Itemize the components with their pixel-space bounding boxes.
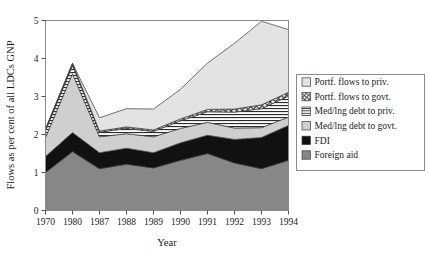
- y-tick-label: 0: [34, 206, 39, 216]
- legend-swatch: [302, 107, 310, 115]
- legend-label: Med/lng debt to govt.: [315, 121, 397, 131]
- legend-label: FDI: [315, 136, 330, 146]
- x-tick-label: 1988: [117, 217, 136, 227]
- legend-label: Portf. flows to govt.: [315, 92, 391, 102]
- x-tick-label: 1980: [63, 217, 82, 227]
- y-tick-label: 4: [34, 54, 39, 64]
- legend-swatch: [302, 151, 310, 159]
- legend-label: Med/lng debt to priv.: [315, 106, 395, 116]
- y-tick-label: 2: [34, 130, 39, 140]
- legend-swatch: [302, 92, 310, 100]
- legend-label: Portf. flows to priv.: [315, 77, 389, 87]
- y-tick-label: 5: [34, 16, 39, 26]
- x-tick-label: 1991: [198, 217, 217, 227]
- x-axis-title: Year: [157, 237, 177, 248]
- x-tick-label: 1970: [36, 217, 55, 227]
- y-tick-label: 1: [34, 168, 39, 178]
- x-tick-label: 1989: [144, 217, 163, 227]
- y-tick-label: 3: [34, 92, 39, 102]
- x-tick-label: 1993: [252, 217, 271, 227]
- x-tick-label: 1987: [90, 217, 109, 227]
- legend-swatch: [302, 136, 310, 144]
- y-axis-title: Flows as per cent of all LDCs GNP: [5, 40, 16, 189]
- x-tick-label: 1990: [171, 217, 190, 227]
- stacked-area-chart: 012345 197019801987198819891990199119921…: [0, 0, 428, 257]
- x-tick-label: 1994: [279, 217, 298, 227]
- legend-swatch: [302, 122, 310, 130]
- x-tick-label: 1992: [225, 217, 244, 227]
- legend-label: Foreign aid: [315, 150, 359, 160]
- chart-legend: Portf. flows to priv.Portf. flows to gov…: [297, 75, 425, 171]
- chart-container: 012345 197019801987198819891990199119921…: [0, 0, 428, 257]
- legend-swatch: [302, 78, 310, 86]
